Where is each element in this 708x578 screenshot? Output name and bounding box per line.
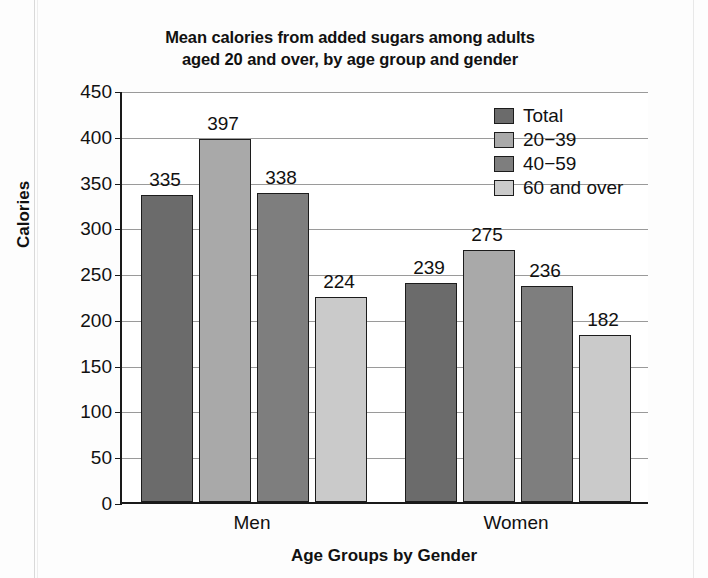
bar-total-women: [405, 283, 457, 502]
x-axis-tick-label-men: Men: [234, 512, 271, 534]
y-axis-tick-label: 100: [60, 401, 112, 423]
legend-item-label: Total: [523, 105, 563, 127]
y-axis-tick: [115, 321, 122, 322]
gridline: [122, 504, 648, 505]
y-axis-tick: [115, 367, 122, 368]
legend-item-label: 20−39: [523, 129, 576, 151]
x-axis-title: Age Groups by Gender: [120, 546, 648, 566]
legend-item: Total: [494, 104, 654, 127]
y-axis-tick: [115, 138, 122, 139]
bar-total-men: [141, 195, 193, 502]
scan-artifact-line-right: [693, 0, 694, 578]
y-axis-tick-label: 350: [60, 173, 112, 195]
y-axis-tick: [115, 458, 122, 459]
bar-value-label: 239: [413, 257, 445, 279]
bar-20-39-women: [463, 250, 515, 502]
legend-swatch-icon: [494, 180, 514, 196]
bar-40-59-men: [257, 193, 309, 502]
y-axis-tick: [115, 92, 122, 93]
y-axis-tick-label: 450: [60, 81, 112, 103]
chart-title-line-2: aged 20 and over, by age group and gende…: [60, 48, 640, 70]
legend-item: 20−39: [494, 128, 654, 151]
y-axis-tick-label: 300: [60, 218, 112, 240]
y-axis-tick: [115, 504, 122, 505]
chart-legend: Total20−3940−5960 and over: [494, 104, 654, 200]
legend-item-label: 40−59: [523, 153, 576, 175]
y-axis-tick-labels: 450400350300250200150100500: [52, 92, 112, 504]
legend-item: 40−59: [494, 152, 654, 175]
bar-value-label: 182: [587, 309, 619, 331]
bar-value-label: 236: [529, 260, 561, 282]
legend-item: 60 and over: [494, 176, 654, 199]
y-axis-title: Calories: [14, 181, 34, 248]
bar-value-label: 338: [265, 167, 297, 189]
y-axis-tick-label: 400: [60, 127, 112, 149]
bar-value-label: 224: [323, 271, 355, 293]
y-axis-tick: [115, 229, 122, 230]
y-axis-tick-label: 50: [60, 447, 112, 469]
scan-artifact-line-left: [34, 0, 35, 578]
y-axis-tick-label: 250: [60, 264, 112, 286]
y-axis-tick-label: 150: [60, 356, 112, 378]
bar-60-and-over-men: [315, 297, 367, 502]
y-axis-tick: [115, 184, 122, 185]
bar-40-59-women: [521, 286, 573, 502]
gridline: [122, 92, 648, 93]
y-axis-tick-label: 200: [60, 310, 112, 332]
x-axis-tick-label-women: Women: [483, 512, 548, 534]
scan-artifact-line-left-2: [37, 0, 38, 578]
legend-swatch-icon: [494, 132, 514, 148]
chart-title-line-1: Mean calories from added sugars among ad…: [60, 26, 640, 48]
chart-title: Mean calories from added sugars among ad…: [60, 26, 640, 71]
y-axis-tick-label: 0: [60, 493, 112, 515]
y-axis-tick: [115, 275, 122, 276]
y-axis-tick: [115, 412, 122, 413]
legend-swatch-icon: [494, 156, 514, 172]
bar-60-and-over-women: [579, 335, 631, 502]
legend-item-label: 60 and over: [523, 177, 623, 199]
chart-page: Mean calories from added sugars among ad…: [0, 0, 708, 578]
bar-value-label: 397: [207, 113, 239, 135]
bar-value-label: 275: [471, 224, 503, 246]
legend-swatch-icon: [494, 108, 514, 124]
bar-20-39-men: [199, 139, 251, 502]
bar-value-label: 335: [149, 169, 181, 191]
